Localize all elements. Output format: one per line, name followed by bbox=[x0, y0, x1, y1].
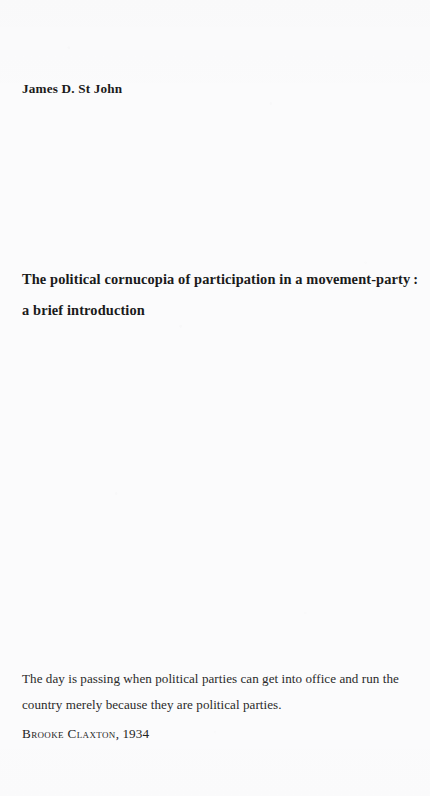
chapter-title-line-2: a brief introduction bbox=[22, 295, 414, 326]
chapter-title: The political cornucopia of participatio… bbox=[22, 264, 414, 326]
epigraph-quote-line-2: country merely because they are politica… bbox=[22, 692, 400, 718]
author-block: James D. St John bbox=[22, 80, 412, 97]
epigraph-quote-line-1: The day is passing when political partie… bbox=[22, 666, 400, 692]
epigraph-attribution-name: Brooke Claxton bbox=[22, 726, 116, 741]
epigraph-attribution-year: 1934 bbox=[122, 726, 149, 741]
chapter-title-line-1: The political cornucopia of participatio… bbox=[22, 264, 414, 295]
epigraph-attribution: Brooke Claxton, 1934 bbox=[22, 725, 400, 743]
chapter-opening-page: James D. St John The political cornucopi… bbox=[0, 0, 430, 796]
author-name: James D. St John bbox=[22, 80, 412, 97]
epigraph: The day is passing when political partie… bbox=[22, 666, 400, 743]
